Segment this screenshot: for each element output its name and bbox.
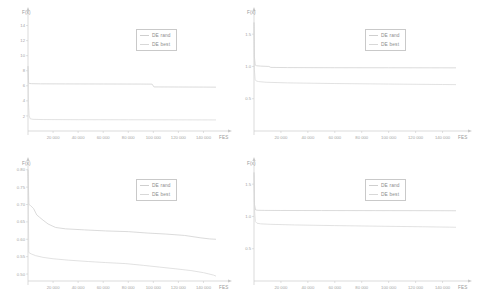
x-tick-label: 60 000 xyxy=(91,285,115,290)
legend-label-de-best: DE best xyxy=(381,42,399,47)
legend-item-de-rand: DE rand xyxy=(140,33,171,38)
plot-area-top-right xyxy=(238,0,477,152)
y-tick-label: 1.5 xyxy=(232,32,251,37)
panel-top-left: F(x) FES DE rand DE best 246810121420 00… xyxy=(0,0,238,152)
legend-top-right: DE rand DE best xyxy=(365,29,406,51)
x-tick-label: 40 000 xyxy=(296,285,320,290)
y-tick-label: 0.60 xyxy=(6,237,25,242)
y-tick-label: 2 xyxy=(6,114,25,119)
y-axis-label-top-left: F(x) xyxy=(22,10,31,15)
y-axis-label-top-right: F(x) xyxy=(247,10,256,15)
panel-top-right: F(x) FES DE rand DE best 0.51.01.520 000… xyxy=(238,0,477,152)
legend-line-icon-de-best xyxy=(369,44,378,45)
legend-bottom-left: DE rand DE best xyxy=(136,179,177,201)
x-tick-label: 60 000 xyxy=(323,135,347,140)
legend-top-left: DE rand DE best xyxy=(136,29,177,51)
x-tick-label: 60 000 xyxy=(91,135,115,140)
x-tick-label: 120 000 xyxy=(404,135,428,140)
x-tick-label: 80 000 xyxy=(116,285,140,290)
legend-line-icon-de-rand xyxy=(140,185,149,186)
panel-bottom-right: F(x) FES DE rand DE best 0.51.01.520 000… xyxy=(238,152,477,304)
x-tick-label: 100 000 xyxy=(377,285,401,290)
legend-label-de-best: DE best xyxy=(152,42,170,47)
legend-item-de-best: DE best xyxy=(140,42,171,47)
legend-label-de-rand: DE rand xyxy=(381,33,400,38)
y-tick-label: 0.50 xyxy=(6,272,25,277)
plot-area-top-left xyxy=(0,0,238,152)
series-line-de-best xyxy=(254,23,456,85)
legend-label-de-rand: DE rand xyxy=(152,183,171,188)
legend-item-de-best: DE best xyxy=(140,192,171,197)
plot-area-bottom-right xyxy=(238,152,477,304)
x-tick-label: 80 000 xyxy=(350,135,374,140)
y-tick-label: 14 xyxy=(6,23,25,28)
series-line-de-best xyxy=(28,170,216,276)
y-tick-label: 1.0 xyxy=(232,64,251,69)
x-tick-label: 120 000 xyxy=(166,135,190,140)
legend-label-de-rand: DE rand xyxy=(152,33,171,38)
x-tick-label: 120 000 xyxy=(166,285,190,290)
y-tick-label: 0.75 xyxy=(6,185,25,190)
x-tick-label: 100 000 xyxy=(377,135,401,140)
x-tick-label: 40 000 xyxy=(296,135,320,140)
x-tick-label: 20 000 xyxy=(41,285,65,290)
y-tick-label: 0.5 xyxy=(232,246,251,251)
x-tick-label: 100 000 xyxy=(141,135,165,140)
x-tick-label: 20 000 xyxy=(41,135,65,140)
x-tick-label: 80 000 xyxy=(350,285,374,290)
x-axis-label-top-right: FES xyxy=(458,135,468,140)
x-axis-label-top-left: FES xyxy=(219,135,229,140)
x-tick-label: 140 000 xyxy=(431,135,455,140)
x-tick-label: 140 000 xyxy=(191,285,215,290)
x-tick-label: 20 000 xyxy=(269,285,293,290)
legend-item-de-rand: DE rand xyxy=(369,33,400,38)
legend-line-icon-de-best xyxy=(140,44,149,45)
series-line-de-rand xyxy=(254,173,456,211)
x-axis-label-bottom-right: FES xyxy=(458,285,468,290)
legend-line-icon-de-best xyxy=(140,194,149,195)
y-tick-label: 6 xyxy=(6,83,25,88)
y-tick-label: 1.0 xyxy=(232,214,251,219)
y-tick-label: 10 xyxy=(6,53,25,58)
legend-line-icon-de-rand xyxy=(369,35,378,36)
y-tick-label: 1.5 xyxy=(232,182,251,187)
x-tick-label: 40 000 xyxy=(66,285,90,290)
x-tick-label: 20 000 xyxy=(269,135,293,140)
x-tick-label: 60 000 xyxy=(323,285,347,290)
legend-item-de-rand: DE rand xyxy=(140,183,171,188)
y-tick-label: 12 xyxy=(6,38,25,43)
y-tick-label: 0.55 xyxy=(6,254,25,259)
series-line-de-best xyxy=(254,173,456,228)
y-tick-label: 0.70 xyxy=(6,202,25,207)
series-line-de-rand xyxy=(28,66,216,87)
y-axis-label-bottom-left: F(x) xyxy=(22,161,31,166)
figure-grid: F(x) FES DE rand DE best 246810121420 00… xyxy=(0,0,477,304)
x-tick-label: 140 000 xyxy=(191,135,215,140)
x-tick-label: 100 000 xyxy=(141,285,165,290)
x-tick-label: 80 000 xyxy=(116,135,140,140)
y-tick-label: 4 xyxy=(6,98,25,103)
x-tick-label: 140 000 xyxy=(431,285,455,290)
legend-line-icon-de-best xyxy=(369,194,378,195)
legend-line-icon-de-rand xyxy=(369,185,378,186)
y-tick-label: 0.5 xyxy=(232,96,251,101)
x-tick-label: 120 000 xyxy=(404,285,428,290)
legend-line-icon-de-rand xyxy=(140,35,149,36)
series-line-de-best xyxy=(28,66,216,120)
panel-bottom-left: F(x) FES DE rand DE best 0.500.550.600.6… xyxy=(0,152,238,304)
legend-label-de-best: DE best xyxy=(381,192,399,197)
x-tick-label: 40 000 xyxy=(66,135,90,140)
legend-label-de-best: DE best xyxy=(152,192,170,197)
legend-item-de-best: DE best xyxy=(369,192,400,197)
plot-area-bottom-left xyxy=(0,152,238,304)
y-tick-label: 8 xyxy=(6,68,25,73)
x-axis-label-bottom-left: FES xyxy=(219,285,229,290)
legend-item-de-best: DE best xyxy=(369,42,400,47)
y-tick-label: 0.65 xyxy=(6,219,25,224)
y-tick-label: 0.80 xyxy=(6,167,25,172)
legend-item-de-rand: DE rand xyxy=(369,183,400,188)
y-axis-label-bottom-right: F(x) xyxy=(247,161,256,166)
series-line-de-rand xyxy=(254,23,456,68)
legend-label-de-rand: DE rand xyxy=(381,183,400,188)
legend-bottom-right: DE rand DE best xyxy=(365,179,406,201)
